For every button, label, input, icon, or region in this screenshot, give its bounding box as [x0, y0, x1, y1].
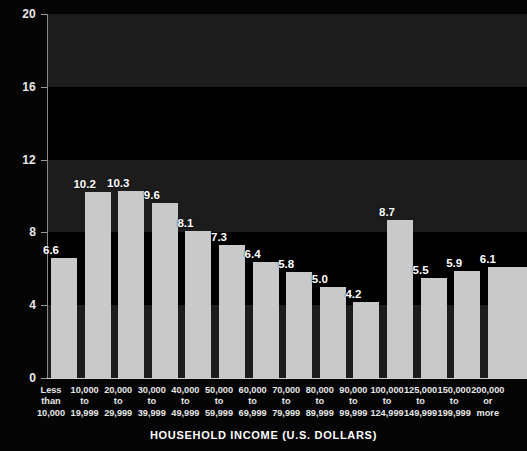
x-axis-title: HOUSEHOLD INCOME (U.S. DOLLARS)	[0, 429, 527, 441]
y-tick-label-20: 20	[22, 8, 36, 20]
y-tick-mark-12	[41, 160, 47, 161]
y-tick-mark-4	[41, 305, 47, 306]
bar-1	[85, 192, 111, 378]
bar-value-10: 8.7	[374, 206, 400, 218]
bar-value-4: 8.1	[172, 217, 198, 229]
bar-value-13: 6.1	[475, 253, 501, 265]
bar-6	[253, 262, 279, 379]
x-category-label-13-line1: 200,000	[463, 385, 513, 396]
bar-3	[152, 203, 178, 378]
y-tick-label-4: 4	[29, 299, 36, 311]
bar-value-3: 9.6	[139, 189, 165, 201]
bar-0	[51, 258, 77, 378]
bar-value-2: 10.3	[105, 177, 131, 189]
bar-13	[488, 267, 527, 378]
y-tick-mark-0	[41, 378, 47, 379]
bar-value-5: 7.3	[206, 231, 232, 243]
bar-value-7: 5.8	[273, 258, 299, 270]
bar-value-0: 6.6	[38, 244, 64, 256]
bar-9	[353, 302, 379, 378]
y-tick-mark-16	[41, 87, 47, 88]
bar-12	[454, 271, 480, 378]
bar-value-6: 6.4	[240, 248, 266, 260]
bar-value-1: 10.2	[72, 178, 98, 190]
x-category-label-13-line3: more	[463, 408, 513, 419]
plot-area	[48, 14, 527, 378]
bar-10	[387, 220, 413, 378]
x-category-label-13-line2: or	[463, 396, 513, 407]
bar-value-8: 5.0	[307, 273, 333, 285]
bar-11	[421, 278, 447, 378]
bar-4	[185, 231, 211, 378]
bar-chart: 20 16 12 8 4 0 6.6 10.2 10.3 9.6 8.1 7.3…	[0, 0, 527, 451]
y-axis-line	[47, 14, 48, 379]
bar-7	[286, 272, 312, 378]
y-tick-label-12: 12	[22, 154, 36, 166]
bar-5	[219, 245, 245, 378]
bar-value-11: 5.5	[408, 264, 434, 276]
y-tick-label-8: 8	[29, 226, 36, 238]
bar-2	[118, 191, 144, 379]
y-tick-mark-8	[41, 232, 47, 233]
bar-value-9: 4.2	[340, 288, 366, 300]
y-tick-mark-20	[41, 14, 47, 15]
y-tick-label-0: 0	[29, 372, 36, 384]
x-category-label-13: 200,000 or more	[463, 385, 513, 419]
bar-8	[320, 287, 346, 378]
y-tick-label-16: 16	[22, 81, 36, 93]
background-band-12-16	[48, 87, 527, 160]
bar-value-12: 5.9	[441, 257, 467, 269]
background-band-16-20	[48, 14, 527, 87]
x-axis-line	[47, 378, 527, 379]
